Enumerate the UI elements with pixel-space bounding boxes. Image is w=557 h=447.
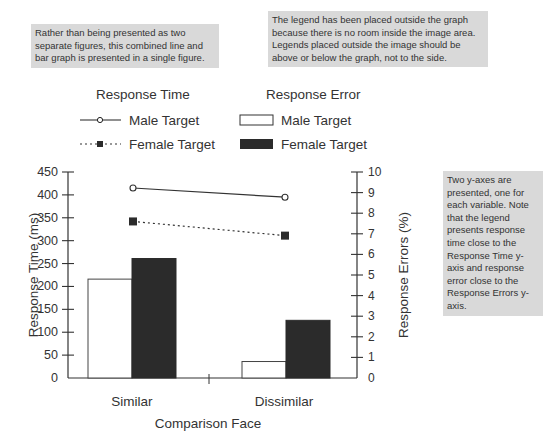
legend-dark-bar-icon xyxy=(240,139,273,149)
error-bars-group xyxy=(88,259,330,378)
line-female-target xyxy=(133,221,285,235)
x-category-similar: Similar xyxy=(111,394,153,409)
right-tick-label: 3 xyxy=(368,309,375,323)
right-axis-label: Response Errors (%) xyxy=(396,212,411,338)
legend: Response Time Response Error Male Target… xyxy=(80,87,367,152)
right-tick-label: 4 xyxy=(368,289,375,303)
bar-male-dissimilar xyxy=(242,362,286,378)
legend-bar-male-label: Male Target xyxy=(281,113,352,128)
right-tick-label: 8 xyxy=(368,206,375,220)
legend-open-circle-icon xyxy=(97,117,102,122)
combined-line-bar-chart: Response Time Response Error Male Target… xyxy=(0,0,557,447)
right-tick-label: 6 xyxy=(368,247,375,261)
bar-female-similar xyxy=(132,259,176,378)
legend-bar-female-label: Female Target xyxy=(281,137,367,152)
legend-line-male-label: Male Target xyxy=(129,113,200,128)
x-axis-label: Comparison Face xyxy=(155,416,262,431)
response-time-lines-group xyxy=(129,185,289,240)
left-axis-label: Response Time (ms) xyxy=(26,213,41,338)
legend-title-response-error: Response Error xyxy=(266,87,361,102)
left-y-axis: 050100150200250300350400450 Response Tim… xyxy=(26,165,74,385)
left-tick-label: 450 xyxy=(37,165,58,179)
right-tick-label: 2 xyxy=(368,330,375,344)
right-y-axis: 012345678910 Response Errors (%) xyxy=(351,165,411,385)
left-tick-label: 400 xyxy=(37,188,58,202)
left-tick-label: 50 xyxy=(44,348,58,362)
open-circle-marker-icon xyxy=(282,194,288,200)
right-tick-label: 7 xyxy=(368,227,375,241)
right-tick-label: 0 xyxy=(368,371,375,385)
filled-square-marker-icon xyxy=(281,232,289,240)
bar-female-dissimilar xyxy=(286,320,330,378)
x-category-dissimilar: Dissimilar xyxy=(255,394,314,409)
right-tick-label: 5 xyxy=(368,268,375,282)
right-tick-label: 1 xyxy=(368,350,375,364)
open-circle-marker-icon xyxy=(130,185,136,191)
legend-line-female-label: Female Target xyxy=(129,137,215,152)
bar-male-similar xyxy=(88,279,132,378)
legend-filled-square-icon xyxy=(97,141,103,147)
filled-square-marker-icon xyxy=(129,217,137,225)
right-tick-label: 10 xyxy=(368,165,382,179)
legend-white-bar-icon xyxy=(240,115,273,125)
left-tick-label: 0 xyxy=(51,371,58,385)
legend-title-response-time: Response Time xyxy=(96,87,190,102)
right-tick-label: 9 xyxy=(368,186,375,200)
line-male-target xyxy=(133,188,285,197)
x-axis: Similar Dissimilar Comparison Face xyxy=(68,374,357,431)
